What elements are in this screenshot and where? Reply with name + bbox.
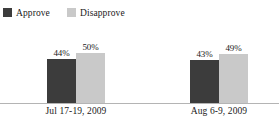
bar-group-aug-6-9-2009: 43% 49%: [190, 24, 248, 103]
bar-disapprove-2[interactable]: [219, 54, 248, 103]
legend-item-disapprove: Disapprove: [67, 8, 125, 18]
legend-label-disapprove: Disapprove: [80, 8, 125, 18]
bar-value-approve-1: 44%: [47, 48, 76, 58]
chart-legend: Approve Disapprove: [3, 6, 125, 19]
bar-wrap-disapprove-1: 50%: [76, 24, 105, 103]
bar-disapprove-1[interactable]: [76, 53, 105, 103]
x-tick-label-aug-6-9-2009: Aug 6-9, 2009: [180, 106, 258, 117]
bar-wrap-approve-1: 44%: [47, 24, 76, 103]
bar-wrap-approve-2: 43%: [190, 24, 219, 103]
bar-wrap-disapprove-2: 49%: [219, 24, 248, 103]
plot-area: 44% 50% 43% 49%: [0, 24, 279, 104]
bar-value-approve-2: 43%: [190, 49, 219, 59]
legend-swatch-disapprove: [67, 8, 76, 17]
bar-chart: Approve Disapprove 44% 50%: [0, 0, 279, 127]
x-tick-label-jul-17-19-2009: Jul 17-19, 2009: [37, 106, 115, 117]
x-axis-line: [0, 103, 279, 104]
bar-approve-1[interactable]: [47, 59, 76, 103]
bar-value-disapprove-1: 50%: [76, 42, 105, 52]
legend-item-approve: Approve: [3, 8, 50, 18]
legend-label-approve: Approve: [16, 8, 50, 18]
bar-group-jul-17-19-2009: 44% 50%: [47, 24, 105, 103]
legend-swatch-approve: [3, 8, 12, 17]
bar-value-disapprove-2: 49%: [219, 43, 248, 53]
bar-approve-2[interactable]: [190, 60, 219, 103]
